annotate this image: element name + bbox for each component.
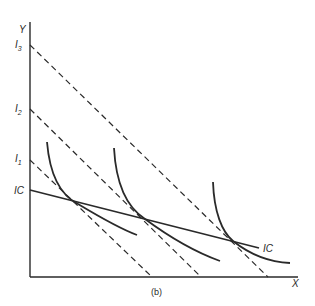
- diagram-canvas: Y X I3 I2 I1 IC IC (b): [0, 0, 315, 306]
- figure-caption: (b): [151, 287, 162, 297]
- budget-label-i2: I2: [15, 103, 22, 116]
- x-axis-label: X: [291, 278, 299, 289]
- indifference-curve-3: [213, 182, 290, 263]
- y-axis-label: Y: [19, 24, 27, 35]
- budget-line-i3: [30, 45, 268, 277]
- budget-line-i1: [30, 160, 152, 277]
- budget-label-i3: I3: [15, 39, 22, 52]
- budget-line-i2: [30, 109, 201, 277]
- ic-label-left: IC: [14, 185, 25, 196]
- budget-label-i1: I1: [15, 153, 22, 166]
- ic-label-right: IC: [263, 243, 274, 254]
- indifference-curve-1: [47, 142, 137, 235]
